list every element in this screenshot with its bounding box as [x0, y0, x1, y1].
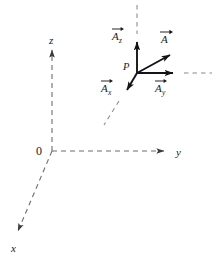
vector-ax-label: A x — [100, 79, 113, 97]
vector-ay-label-sub: y — [161, 88, 166, 97]
vector-az-label-sub: z — [118, 36, 122, 45]
vector-ay-label: A y — [154, 79, 167, 97]
x-guide-dash-below-p — [104, 101, 119, 125]
axis-group — [18, 50, 164, 231]
label-group: 0 z y x P A A z — [10, 27, 181, 254]
vector-ax-label-sub: x — [107, 88, 112, 97]
vector-group — [127, 42, 173, 90]
vector-a-label: A — [160, 30, 173, 45]
vector-a-arrow — [137, 55, 170, 73]
x-axis-label: x — [10, 242, 16, 254]
vector-ax-label-base: A — [100, 82, 108, 94]
vector-diagram-figure: 0 z y x P A A z — [0, 0, 219, 261]
coordinate-axes-svg: 0 z y x P A A z — [0, 0, 219, 261]
z-axis-label: z — [48, 34, 54, 46]
vector-a-label-base: A — [160, 33, 168, 45]
vector-az-label-base: A — [111, 30, 119, 42]
vector-ax-arrow — [127, 73, 137, 90]
origin-label: 0 — [36, 144, 42, 158]
point-p-label: P — [122, 61, 130, 72]
vector-ay-label-base: A — [154, 82, 162, 94]
y-axis-label: y — [175, 146, 181, 158]
guide-line-group — [104, 5, 212, 125]
x-axis-line — [18, 151, 52, 231]
vector-az-label: A z — [111, 27, 124, 45]
